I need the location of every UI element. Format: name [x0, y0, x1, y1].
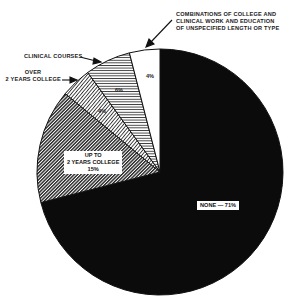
label-combinations-line2: CLINICAL WORK AND EDUCATION	[176, 18, 279, 25]
label-combinations-line1: COMBINATIONS OF COLLEGE AND	[176, 11, 279, 18]
pct-clinical: 6%	[114, 87, 124, 93]
pie-chart	[0, 0, 293, 302]
label-upto-line2: 2 YEARS COLLEGE	[67, 159, 119, 166]
label-none: NONE — 71%	[197, 201, 239, 210]
label-up-to-2-years: UP TO 2 YEARS COLLEGE 15%	[64, 151, 122, 174]
pct-combinations: 4%	[145, 73, 155, 79]
label-clinical-courses: CLINICAL COURSES	[24, 53, 82, 60]
label-combinations: COMBINATIONS OF COLLEGE AND CLINICAL WOR…	[176, 11, 279, 32]
label-over-2-years: OVER 2 YEARS COLLEGE	[5, 69, 61, 83]
label-upto-pct: 15%	[67, 166, 119, 173]
label-combinations-line3: OF UNSPECIFIED LENGTH OR TYPE	[176, 25, 279, 32]
pct-over-2-years: 4%	[97, 108, 107, 114]
label-upto-line1: UP TO	[67, 152, 119, 159]
label-over-line1: OVER	[5, 69, 61, 76]
label-over-line2: 2 YEARS COLLEGE	[5, 76, 61, 83]
